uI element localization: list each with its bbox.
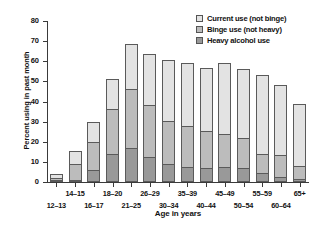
x-tick [56, 182, 57, 187]
chart-legend: Current use (not binge)Binge use (not he… [196, 13, 286, 46]
x-tick [262, 182, 263, 187]
bar-segment-heavy [106, 154, 119, 182]
x-axis-title: Age in years [47, 209, 309, 218]
x-tick-label: 45–49 [204, 189, 246, 198]
bar-segment-current [274, 85, 287, 155]
bar-segment-binge [256, 154, 269, 173]
y-tick-label: 40 [5, 98, 39, 106]
legend-swatch-icon [196, 15, 203, 22]
bar-stack [69, 151, 82, 182]
x-tick-label: 26–29 [129, 189, 171, 198]
x-tick [187, 182, 188, 187]
x-tick [113, 182, 114, 187]
x-tick [206, 182, 207, 187]
x-tick [75, 182, 76, 187]
bar-stack [143, 54, 156, 182]
y-tick-label: 30 [5, 118, 39, 126]
bar-segment-heavy [162, 164, 175, 182]
bar-segment-heavy [256, 173, 269, 182]
bar-stack [256, 75, 269, 182]
x-tick-label: 65+ [279, 189, 321, 198]
y-tick-label: 0 [5, 178, 39, 186]
bar-segment-binge [200, 131, 213, 168]
x-tick [131, 182, 132, 187]
bar-stack [50, 174, 63, 182]
x-tick [150, 182, 151, 187]
bar-segment-heavy [143, 157, 156, 182]
bar-stack [125, 44, 138, 182]
bar-stack [237, 69, 250, 182]
bar-segment-heavy [87, 170, 100, 182]
y-tick-label: 20 [5, 138, 39, 146]
x-tick-label: 18–20 [92, 189, 134, 198]
legend-label: Heavy alcohol use [207, 36, 270, 45]
bar-segment-current [237, 69, 250, 137]
legend-item: Heavy alcohol use [196, 35, 286, 46]
x-tick [281, 182, 282, 187]
x-tick-label: 14–15 [54, 189, 96, 198]
bar-segment-binge [87, 142, 100, 171]
legend-item: Binge use (not heavy) [196, 24, 286, 35]
bar-segment-binge [293, 166, 306, 179]
x-tick [169, 182, 170, 187]
bar-segment-current [181, 63, 194, 125]
y-tick-label: 50 [5, 77, 39, 85]
bar-stack [274, 85, 287, 182]
bar-segment-binge [143, 105, 156, 158]
bar-segment-current [293, 104, 306, 166]
x-tick-label: 35–39 [166, 189, 208, 198]
legend-item: Current use (not binge) [196, 13, 286, 24]
bar-stack [218, 63, 231, 182]
bar-segment-binge [237, 138, 250, 168]
bar-segment-current [87, 122, 100, 142]
bar-segment-heavy [200, 168, 213, 182]
bar-segment-heavy [125, 148, 138, 182]
bar-segment-binge [181, 126, 194, 167]
x-tick [225, 182, 226, 187]
bar-segment-current [200, 68, 213, 130]
legend-label: Current use (not binge) [207, 14, 286, 23]
y-tick-label: 10 [5, 158, 39, 166]
bar-segment-current [143, 54, 156, 105]
bar-segment-current [162, 60, 175, 120]
legend-label: Binge use (not heavy) [207, 25, 282, 34]
legend-swatch-icon [196, 37, 203, 44]
bar-segment-binge [218, 134, 231, 167]
bar-segment-binge [69, 164, 82, 180]
bar-stack [162, 60, 175, 182]
bar-stack [200, 68, 213, 182]
x-tick [244, 182, 245, 187]
bar-segment-current [106, 79, 119, 109]
bar-segment-binge [106, 109, 119, 154]
y-tick-label: 80 [5, 17, 39, 25]
bar-segment-binge [274, 155, 287, 177]
alcohol-use-by-age-chart: Percent using in past month 010203040506… [0, 0, 322, 233]
bar-segment-heavy [237, 168, 250, 182]
bar-stack [106, 79, 119, 182]
legend-swatch-icon [196, 26, 203, 33]
x-tick [300, 182, 301, 187]
bar-segment-current [256, 75, 269, 154]
bar-stack [181, 63, 194, 182]
bar-segment-binge [162, 121, 175, 164]
x-tick-label: 55–59 [241, 189, 283, 198]
y-tick [43, 182, 47, 183]
bar-segment-current [69, 151, 82, 164]
x-axis-line [47, 182, 309, 183]
x-tick [94, 182, 95, 187]
bar-segment-heavy [181, 167, 194, 182]
bar-stack [293, 104, 306, 182]
bar-segment-current [218, 63, 231, 133]
bar-segment-heavy [218, 167, 231, 182]
bar-stack [87, 122, 100, 182]
bar-segment-binge [125, 89, 138, 147]
y-tick-label: 70 [5, 37, 39, 45]
y-tick-label: 60 [5, 57, 39, 65]
bar-segment-current [125, 44, 138, 89]
